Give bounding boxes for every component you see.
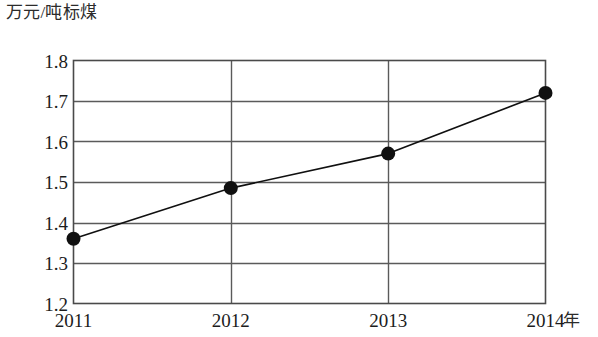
- line-chart: 万元/吨标煤 1.81.71.61.51.41.31.2 20112012201…: [0, 0, 598, 337]
- x-axis-tick-labels: 2011201220132014: [0, 0, 598, 337]
- x-axis-tick-label: 2013: [343, 310, 433, 332]
- x-axis-tick-label: 2011: [29, 310, 119, 332]
- x-axis-unit-label: 年: [563, 310, 580, 332]
- x-axis-tick-label: 2012: [186, 310, 276, 332]
